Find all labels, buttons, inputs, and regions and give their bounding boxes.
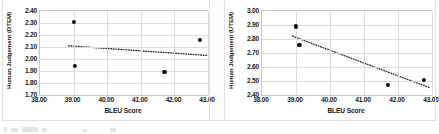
scan-artifact-2 — [11, 128, 18, 132]
gridline-horizontal — [262, 39, 432, 40]
y-tick-label: 2.60 — [247, 63, 259, 70]
x-tick-label: 43.00 — [423, 96, 439, 103]
x-tick-label: 41.00 — [132, 96, 148, 103]
y-tick-label: 2.10 — [25, 43, 37, 50]
x-tick-label: 42.00 — [166, 96, 182, 103]
panel-divider-mid2 — [224, 0, 225, 121]
y-axis-title-left: Human Judgement (DTEM) — [2, 0, 15, 100]
y-axis-ticks-right: 2.402.502.602.702.802.903.00 — [237, 10, 259, 94]
gridline-vertical — [398, 11, 399, 95]
gridline-vertical — [432, 11, 433, 95]
x-axis-title-left: BLEU Score — [39, 107, 207, 114]
gridline-horizontal — [40, 23, 208, 24]
gridline-horizontal — [40, 59, 208, 60]
x-axis-title-right: BLEU Score — [261, 107, 431, 114]
y-tick-label: 3.00 — [247, 7, 259, 14]
data-point — [386, 83, 390, 87]
panel-divider-right — [435, 0, 436, 121]
y-axis-ticks-left: 1.701.801.902.002.102.202.302.40 — [15, 10, 37, 94]
y-tick-label: 2.50 — [247, 77, 259, 84]
scan-artifact-4 — [42, 128, 47, 132]
y-tick-label: 2.30 — [25, 19, 37, 26]
x-tick-label: 42.00 — [389, 96, 405, 103]
y-axis-title-right: Human Judgement (UTEM) — [224, 0, 237, 100]
y-tick-label: 2.40 — [25, 7, 37, 14]
panel-bottom-edge — [2, 120, 436, 121]
scan-artifact-3 — [22, 127, 38, 132]
y-tick-label: 2.20 — [25, 31, 37, 38]
plot-area-left — [39, 10, 208, 96]
x-tick-label: 39.00 — [65, 96, 81, 103]
x-tick-label: 40.00 — [98, 96, 114, 103]
figure-container: Human Judgement (DTEM) 1.701.801.902.002… — [0, 0, 439, 134]
data-point — [198, 38, 202, 42]
gridline-horizontal — [262, 53, 432, 54]
chart-panel-right: Human Judgement (UTEM) 2.402.502.602.702… — [224, 0, 436, 121]
gridline-vertical — [174, 11, 175, 95]
x-tick-label: 39.00 — [287, 96, 303, 103]
gridline-horizontal — [262, 81, 432, 82]
chart-panel-left: Human Judgement (DTEM) 1.701.801.902.002… — [2, 0, 210, 121]
x-tick-label: 38.00 — [253, 96, 269, 103]
data-point — [162, 70, 166, 74]
gridline-vertical — [330, 11, 331, 95]
y-tick-label: 2.00 — [25, 55, 37, 62]
gridline-vertical — [364, 11, 365, 95]
data-point — [297, 43, 301, 47]
x-tick-label: 38.00 — [31, 96, 47, 103]
x-tick-label: 40.00 — [321, 96, 337, 103]
y-tick-label: 2.80 — [247, 35, 259, 42]
gridline-horizontal — [40, 47, 208, 48]
plot-area-right — [261, 10, 432, 96]
scan-artifact-5 — [83, 129, 87, 132]
panel-divider-mid — [209, 0, 210, 121]
x-tick-label: 43.00 — [199, 96, 215, 103]
gridline-horizontal — [40, 71, 208, 72]
gridline-vertical — [141, 11, 142, 95]
gridline-horizontal — [40, 35, 208, 36]
scan-artifact-6 — [110, 128, 116, 132]
gridline-horizontal — [40, 83, 208, 84]
scan-artifact-1 — [4, 127, 7, 132]
y-tick-label: 2.70 — [247, 49, 259, 56]
data-point — [73, 64, 77, 68]
data-point — [294, 24, 298, 28]
gridline-vertical — [107, 11, 108, 95]
y-tick-label: 1.90 — [25, 67, 37, 74]
gridline-horizontal — [262, 67, 432, 68]
y-tick-label: 1.80 — [25, 79, 37, 86]
y-tick-label: 2.90 — [247, 21, 259, 28]
x-tick-label: 41.00 — [355, 96, 371, 103]
panel-divider-left — [2, 0, 3, 121]
gridline-horizontal — [262, 25, 432, 26]
